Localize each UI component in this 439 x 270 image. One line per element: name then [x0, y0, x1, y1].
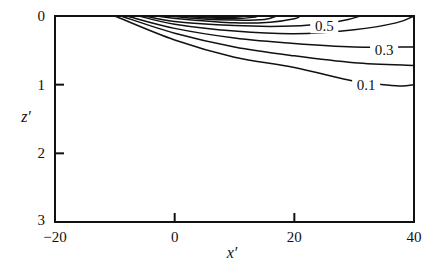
x-tick-label: 0: [171, 229, 179, 245]
contour-label: 0.1: [357, 77, 376, 93]
y-tick-label: 3: [38, 212, 46, 228]
contour-label: 0.3: [375, 42, 394, 58]
y-tick-label: 1: [38, 77, 46, 93]
x-axis-label: x′: [226, 244, 238, 261]
contour-chart: −2002040 0123 0.50.30.1 x′ z′: [0, 0, 439, 270]
y-axis-label: z′: [20, 108, 31, 125]
axis-ticks: [55, 85, 294, 222]
x-tick-labels: −2002040: [43, 229, 421, 245]
y-tick-labels: 0123: [38, 8, 46, 228]
contour-lines: [115, 16, 414, 86]
y-tick-label: 0: [38, 8, 46, 24]
y-tick-label: 2: [38, 145, 46, 161]
contour-label: 0.5: [315, 18, 334, 34]
x-tick-label: 40: [407, 229, 422, 245]
x-tick-label: −20: [43, 229, 66, 245]
x-tick-label: 20: [287, 229, 302, 245]
contour-labels: 0.50.30.1: [310, 17, 398, 92]
